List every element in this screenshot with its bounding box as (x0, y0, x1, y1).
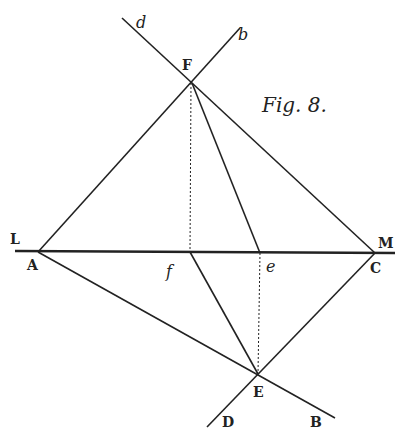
dotted-e-E (258, 253, 260, 374)
figure-caption: Fig. 8. (261, 93, 327, 117)
line-A-F-b (38, 28, 240, 252)
label-A: A (26, 257, 39, 273)
line-d-F-C (122, 18, 375, 253)
label-L: L (10, 231, 20, 247)
line-F-e (192, 83, 260, 253)
label-b: b (238, 25, 248, 44)
label-f: f (165, 262, 175, 281)
label-e: e (266, 257, 275, 276)
line-C-E-D (207, 253, 375, 427)
label-B: B (310, 414, 322, 430)
line-LM (15, 251, 395, 253)
label-M: M (378, 235, 394, 251)
line-A-E-B (38, 252, 335, 418)
label-F: F (182, 57, 192, 73)
label-C: C (370, 260, 381, 276)
dotted-F-f (190, 83, 191, 252)
label-D: D (222, 414, 234, 430)
label-E: E (253, 384, 264, 400)
label-d: d (136, 13, 146, 32)
figure-8-diagram: d b F Fig. 8. L A f e M C E D B (0, 0, 401, 439)
